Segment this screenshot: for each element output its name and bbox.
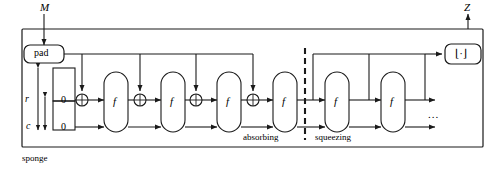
output-z-label: Z <box>464 2 470 13</box>
f-block-1-label: f <box>113 96 116 107</box>
sponge-diagram-canvas <box>0 0 501 192</box>
state-rate-value: 0 <box>61 95 66 105</box>
sponge-outer-label: sponge <box>22 154 48 163</box>
rate-label: r <box>25 94 29 104</box>
phase-label-absorbing: absorbing <box>243 133 279 142</box>
truncate-symbol: ⌊·⌋ <box>455 48 467 59</box>
message-input-label: M <box>40 2 49 13</box>
capacity-label: c <box>26 121 30 131</box>
f-block-6-label: f <box>390 96 393 107</box>
phase-label-squeezing: squeezing <box>315 133 351 142</box>
f-block-2-label: f <box>170 96 173 107</box>
f-block-4-label: f <box>282 96 285 107</box>
state-capacity-value: 0 <box>61 122 66 132</box>
f-block-3-label: f <box>226 96 229 107</box>
ellipsis-label: ... <box>428 109 439 120</box>
pad-label: pad <box>34 48 48 58</box>
sponge-diagram-figure: M Z pad r c 0 0 f f f f f f ⌊·⌋ ... abso… <box>0 0 501 192</box>
f-block-5-label: f <box>334 96 337 107</box>
